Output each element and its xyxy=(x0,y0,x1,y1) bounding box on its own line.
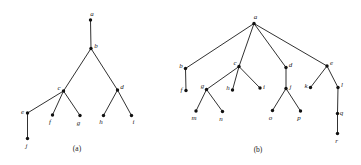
tree-node-b-c[interactable] xyxy=(237,65,240,68)
node-label-b-c: c xyxy=(233,60,236,67)
tree-edge xyxy=(254,24,286,68)
node-label-b-g: g xyxy=(201,83,205,90)
tree-node-a-b[interactable] xyxy=(89,47,92,50)
node-label-a-j: j xyxy=(26,142,28,149)
tree-edge xyxy=(338,88,339,114)
node-label-b-r: r xyxy=(335,137,338,144)
tree-edge xyxy=(118,90,132,116)
tree-edge xyxy=(327,66,338,88)
tree-edge xyxy=(239,67,260,89)
tree-node-a-f[interactable] xyxy=(51,113,54,116)
node-label-a-a: a xyxy=(90,10,94,17)
tree-edge xyxy=(239,24,254,67)
tree-edge xyxy=(186,69,187,91)
node-label-b-e: e xyxy=(330,60,333,67)
node-label-b-k: k xyxy=(304,83,307,90)
tree-node-a-g[interactable] xyxy=(78,114,81,117)
tree-node-b-n[interactable] xyxy=(221,110,224,113)
tree-edge xyxy=(311,66,328,88)
node-label-b-b: b xyxy=(179,62,183,69)
tree-node-b-h[interactable] xyxy=(231,88,234,91)
tree-node-b-m[interactable] xyxy=(194,109,197,112)
node-label-b-j: j xyxy=(290,83,292,90)
tree-edge xyxy=(104,90,118,116)
node-label-a-e: e xyxy=(21,108,24,115)
tree-node-b-l[interactable] xyxy=(336,86,339,89)
panel-caption-a: (a) xyxy=(73,144,81,153)
tree-node-b-o[interactable] xyxy=(271,109,274,112)
tree-edge xyxy=(273,89,287,111)
node-label-b-d: d xyxy=(289,61,293,68)
tree-edge xyxy=(64,49,92,92)
tree-node-b-j[interactable] xyxy=(284,87,287,90)
tree-node-b-k[interactable] xyxy=(309,86,312,89)
tree-edge xyxy=(207,67,240,90)
tree-edge xyxy=(64,91,81,116)
node-label-b-i: i xyxy=(263,84,265,91)
node-label-a-h: h xyxy=(99,119,103,126)
tree-panel-b xyxy=(184,22,340,135)
tree-node-b-b[interactable] xyxy=(184,67,187,70)
node-label-b-q: q xyxy=(340,110,344,117)
tree-node-b-r[interactable] xyxy=(336,132,339,135)
node-label-b-h: h xyxy=(226,84,230,91)
tree-node-b-g[interactable] xyxy=(205,88,208,91)
tree-node-a-c[interactable] xyxy=(62,89,65,92)
tree-node-b-q[interactable] xyxy=(336,112,339,115)
edge-group xyxy=(186,24,339,134)
tree-node-a-e[interactable] xyxy=(26,111,29,114)
node-label-b-p: p xyxy=(297,115,301,122)
node-label-b-o: o xyxy=(269,114,273,121)
tree-edge xyxy=(207,90,223,112)
tree-edge xyxy=(286,89,301,112)
node-group xyxy=(184,22,340,135)
node-label-b-m: m xyxy=(191,115,196,122)
tree-node-b-d[interactable] xyxy=(284,66,287,69)
tree-edge xyxy=(186,24,255,69)
tree-node-b-e[interactable] xyxy=(325,64,328,67)
tree-node-b-p[interactable] xyxy=(299,109,302,112)
node-label-a-g: g xyxy=(77,119,81,126)
tree-edge xyxy=(91,20,92,49)
tree-node-a-j[interactable] xyxy=(26,137,29,140)
node-label-a-f: f xyxy=(49,118,51,125)
tree-node-b-f[interactable] xyxy=(184,89,187,92)
tree-edge xyxy=(196,90,207,112)
node-label-b-n: n xyxy=(219,115,223,122)
node-label-a-b: b xyxy=(94,43,98,50)
node-label-b-f: f xyxy=(181,86,183,93)
node-label-a-i: i xyxy=(133,119,135,126)
tree-node-b-i[interactable] xyxy=(258,86,261,89)
panel-caption-b: (b) xyxy=(254,145,263,154)
tree-figure: abcdefghij(a)abcdefghijklmnopqr(b) xyxy=(0,0,361,165)
tree-node-a-a[interactable] xyxy=(89,18,92,21)
node-label-b-l: l xyxy=(341,82,343,89)
node-label-a-c: c xyxy=(57,84,60,91)
tree-node-b-a[interactable] xyxy=(252,22,255,25)
tree-node-a-d[interactable] xyxy=(116,88,119,91)
tree-edge xyxy=(91,49,118,91)
node-label-b-a: a xyxy=(254,14,258,21)
node-label-a-d: d xyxy=(120,83,124,90)
